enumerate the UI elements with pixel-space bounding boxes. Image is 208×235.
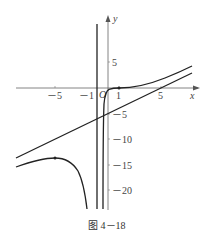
critical-point-marker xyxy=(118,87,121,90)
x-axis-label: x xyxy=(189,90,195,101)
y-tick-label: －20 xyxy=(112,185,132,196)
y-tick-label: 5 xyxy=(112,57,117,68)
function-graph: －5 －1 1 5 O x y 5 －5 －10 －15 －20 图 4－18 xyxy=(0,0,208,235)
y-tick-label: －15 xyxy=(112,160,132,171)
figure-caption: 图 4－18 xyxy=(88,220,126,231)
x-tick-label: 5 xyxy=(158,90,163,101)
y-tick-label: －10 xyxy=(112,134,132,145)
left-branch-curve xyxy=(16,158,87,209)
y-axis-label: y xyxy=(112,13,118,24)
x-tick-label: 1 xyxy=(116,90,121,101)
local-max-marker xyxy=(54,157,57,160)
y-axis-arrow-icon xyxy=(106,15,111,22)
x-tick-label: －5 xyxy=(47,90,62,101)
x-tick-label: －1 xyxy=(79,90,94,101)
